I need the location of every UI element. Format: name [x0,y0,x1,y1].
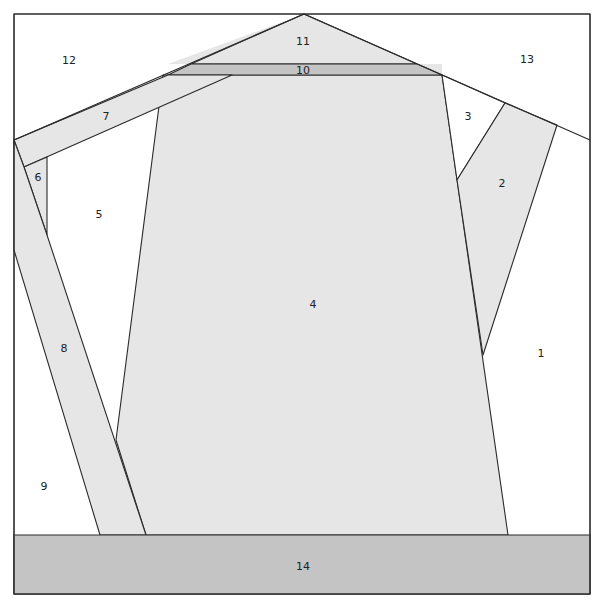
label-piece-12: 12 [62,54,76,67]
label-piece-7: 7 [103,110,110,123]
label-piece-9: 9 [41,480,48,493]
label-piece-2: 2 [499,177,506,190]
label-piece-4: 4 [310,298,317,311]
label-piece-13: 13 [520,53,534,66]
label-piece-3: 3 [465,110,472,123]
label-piece-1: 1 [538,347,545,360]
label-piece-14: 14 [296,560,310,573]
label-piece-6: 6 [35,171,42,184]
pattern-diagram [0,0,607,609]
label-piece-8: 8 [61,342,68,355]
label-piece-10: 10 [296,64,310,77]
label-piece-11: 11 [296,35,310,48]
label-piece-5: 5 [96,208,103,221]
